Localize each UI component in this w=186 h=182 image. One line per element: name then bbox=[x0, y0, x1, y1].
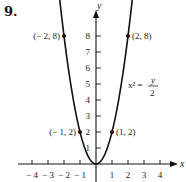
y-tick-label: 2 bbox=[86, 127, 91, 137]
x-tick-label: − 1 bbox=[74, 170, 86, 180]
x-tick-label: 3 bbox=[142, 170, 147, 180]
data-point bbox=[62, 34, 66, 38]
equation-numerator: y bbox=[150, 75, 155, 85]
y-tick-label: 8 bbox=[86, 31, 91, 41]
y-axis-arrow bbox=[93, 10, 99, 18]
y-tick-label: 3 bbox=[86, 111, 91, 121]
parabola-chart: 9. xy − 4− 3− 2− 1123412345678 (− 2, 8)(… bbox=[0, 0, 186, 182]
equation-annotation: x² = y 2 bbox=[128, 75, 158, 98]
point-label: (2, 8) bbox=[132, 31, 152, 41]
y-tick-label: 4 bbox=[86, 95, 91, 105]
equation-denominator: 2 bbox=[150, 88, 155, 98]
point-label: (− 1, 2) bbox=[49, 127, 76, 137]
axes: xy bbox=[18, 0, 185, 182]
x-tick-label: 2 bbox=[126, 170, 131, 180]
x-tick-label: − 4 bbox=[26, 170, 38, 180]
ticks: − 4− 3− 2− 1123412345678 bbox=[26, 31, 163, 180]
y-axis-label: y bbox=[96, 0, 102, 11]
y-tick-label: 6 bbox=[86, 63, 91, 73]
equation-lhs: x² = bbox=[128, 80, 143, 90]
x-axis-label: x bbox=[179, 158, 185, 169]
x-axis-arrow bbox=[170, 161, 178, 167]
x-tick-label: − 2 bbox=[58, 170, 70, 180]
x-tick-label: 1 bbox=[110, 170, 115, 180]
y-tick-label: 5 bbox=[86, 79, 91, 89]
x-tick-label: − 3 bbox=[42, 170, 54, 180]
point-label: (1, 2) bbox=[116, 127, 136, 137]
point-label: (− 2, 8) bbox=[33, 31, 60, 41]
data-point bbox=[126, 34, 130, 38]
y-tick-label: 7 bbox=[86, 47, 91, 57]
problem-number: 9. bbox=[4, 4, 18, 19]
data-point bbox=[78, 130, 82, 134]
data-point bbox=[110, 130, 114, 134]
x-tick-label: 4 bbox=[158, 170, 163, 180]
